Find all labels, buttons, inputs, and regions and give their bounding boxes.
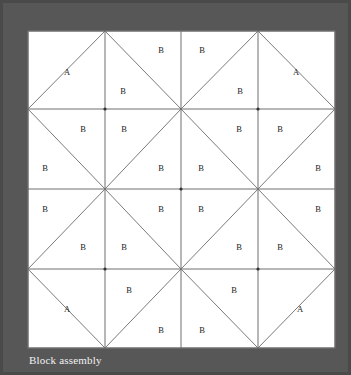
patch-label-b-23: B [126,285,132,295]
patch-label-b-15: B [158,204,164,214]
patch-label-b-12: B [198,163,204,173]
patch-label-b-16: B [198,204,204,214]
patch-label-b-5: B [237,86,243,96]
patch-label-b-26: B [158,325,164,335]
patch-label-a-22: A [64,304,71,314]
seam-node-4 [256,267,259,270]
patch-label-b-13: B [315,163,321,173]
patch-label-b-17: B [315,204,321,214]
patch-label-b-18: B [80,242,86,252]
seam-node-1 [256,107,259,110]
patch-label-b-7: B [121,124,127,134]
patch-label-b-1: B [158,45,164,55]
patch-label-b-24: B [231,285,237,295]
patch-label-b-11: B [158,163,164,173]
figure-caption: Block assembly [29,354,102,366]
patch-label-b-4: B [120,86,126,96]
patch-label-b-8: B [236,124,242,134]
block-assembly-svg: ABBABBBBBBBBBBBBBBBBBBABBABB [3,3,351,375]
patch-label-a-3: A [293,67,300,77]
patch-label-b-27: B [199,325,205,335]
patch-label-b-14: B [42,204,48,214]
quilt-block-diagram: ABBABBBBBBBBBBBBBBBBBBABBABB [3,3,351,375]
seam-node-0 [103,107,106,110]
patch-label-b-19: B [121,242,127,252]
patch-label-a-0: A [64,67,71,77]
patch-label-b-2: B [199,45,205,55]
patch-label-b-9: B [277,124,283,134]
patch-label-b-6: B [80,124,86,134]
patch-label-a-25: A [297,304,304,314]
patch-label-b-20: B [236,242,242,252]
figure-frame: ABBABBBBBBBBBBBBBBBBBBABBABB Block assem… [0,0,351,375]
seam-node-2 [179,187,182,190]
patch-label-b-21: B [277,242,283,252]
seam-node-3 [103,267,106,270]
patch-label-b-10: B [42,163,48,173]
